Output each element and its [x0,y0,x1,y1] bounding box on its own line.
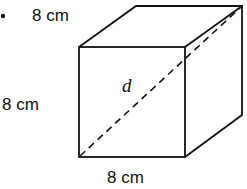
top-edge-label: 8 cm [32,6,69,25]
bullet-marker [1,14,5,18]
diagonal-label: d [122,75,132,96]
bottom-edge-label: 8 cm [107,168,144,187]
cube-front-face [79,47,185,157]
left-edge-label: 8 cm [2,95,39,114]
cube-top-right-edge [185,6,242,47]
cube-diagram: 8 cm 8 cm 8 cm d [0,0,247,189]
